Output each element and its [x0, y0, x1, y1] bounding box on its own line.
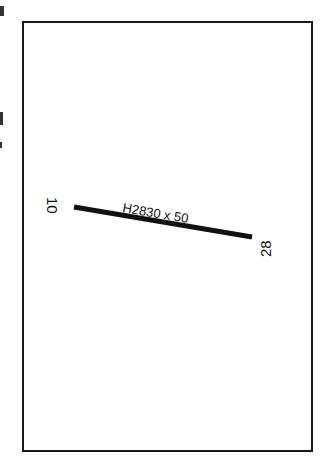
runway-end-28-label: 28 [257, 240, 274, 257]
runway-end-10-label: 10 [44, 197, 61, 214]
runway-diagram: H2830 x 50 10 28 [0, 0, 321, 468]
